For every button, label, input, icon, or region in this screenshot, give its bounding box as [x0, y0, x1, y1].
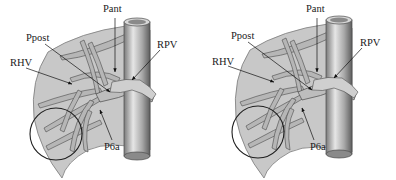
liver-vein-illustration	[0, 0, 198, 180]
diagram-panel-right: Pant Ppost RHV RPV P6a	[198, 0, 396, 180]
liver-vein-illustration	[198, 0, 396, 180]
label-rpv: RPV	[157, 40, 177, 51]
diagram-panel-left: Pant Ppost RHV RPV P6a	[0, 0, 198, 180]
label-p6a: P6a	[104, 142, 120, 153]
label-rpv: RPV	[360, 38, 380, 49]
label-pant: Pant	[103, 4, 122, 15]
label-ppost: Ppost	[26, 33, 49, 44]
label-rhv: RHV	[212, 57, 234, 68]
label-p6a: P6a	[310, 142, 326, 153]
label-ppost: Ppost	[231, 31, 254, 42]
label-rhv: RHV	[10, 58, 32, 69]
label-pant: Pant	[306, 4, 325, 15]
